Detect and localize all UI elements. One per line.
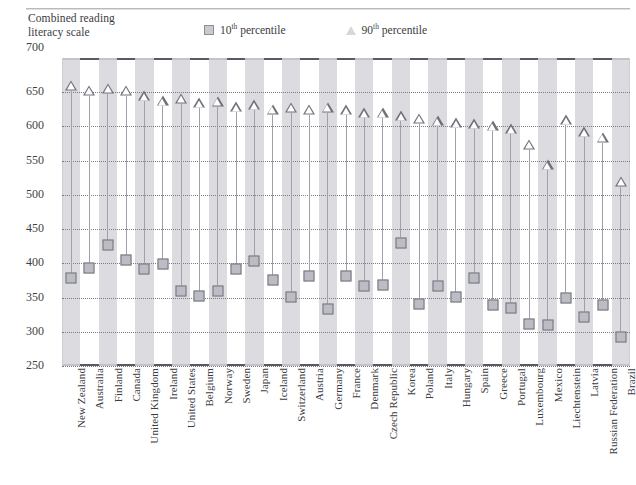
data-point-90th[interactable] bbox=[230, 102, 242, 112]
data-point-90th[interactable] bbox=[395, 110, 407, 120]
y-tick-500: 500 bbox=[26, 187, 60, 202]
x-tick-label: Japan bbox=[258, 368, 270, 394]
data-point-10th[interactable] bbox=[487, 300, 498, 311]
data-point-10th[interactable] bbox=[615, 332, 626, 343]
data-point-90th[interactable] bbox=[65, 80, 77, 90]
data-point-10th[interactable] bbox=[505, 302, 516, 313]
data-point-90th[interactable] bbox=[358, 108, 370, 118]
y-axis-tick-labels: 650600550500450400350300250 bbox=[26, 58, 60, 366]
data-point-90th[interactable] bbox=[102, 83, 114, 93]
data-point-10th[interactable] bbox=[84, 263, 95, 274]
data-point-10th[interactable] bbox=[176, 285, 187, 296]
data-point-10th[interactable] bbox=[286, 291, 297, 302]
data-point-90th[interactable] bbox=[377, 108, 389, 118]
data-point-90th[interactable] bbox=[542, 160, 554, 170]
data-point-90th[interactable] bbox=[83, 85, 95, 95]
data-point-90th[interactable] bbox=[248, 100, 260, 110]
data-point-10th[interactable] bbox=[377, 280, 388, 291]
data-point-90th[interactable] bbox=[175, 93, 187, 103]
range-stem bbox=[565, 125, 566, 298]
data-point-90th[interactable] bbox=[322, 102, 334, 112]
x-tick-label: Canada bbox=[130, 368, 142, 402]
x-tick-label: Hungary bbox=[460, 368, 472, 407]
x-axis-tick-labels: New ZealandAustraliaFinlandCanadaUnited … bbox=[62, 368, 630, 480]
x-tick-label: Italy bbox=[442, 368, 454, 389]
data-point-10th[interactable] bbox=[212, 285, 223, 296]
range-stem bbox=[474, 129, 475, 278]
data-point-10th[interactable] bbox=[121, 254, 132, 265]
y-tick-250: 250 bbox=[26, 358, 60, 373]
x-tick-label: Austria bbox=[313, 368, 325, 401]
data-point-90th[interactable] bbox=[138, 91, 150, 101]
data-point-90th[interactable] bbox=[285, 102, 297, 112]
data-point-90th[interactable] bbox=[523, 139, 535, 149]
data-point-90th[interactable] bbox=[340, 105, 352, 115]
data-point-90th[interactable] bbox=[487, 121, 499, 131]
data-point-10th[interactable] bbox=[139, 264, 150, 275]
data-point-10th[interactable] bbox=[341, 271, 352, 282]
data-point-90th[interactable] bbox=[413, 113, 425, 123]
range-stem bbox=[217, 107, 218, 291]
data-point-90th[interactable] bbox=[615, 176, 627, 186]
x-tick-label: Poland bbox=[423, 368, 435, 399]
data-point-10th[interactable] bbox=[560, 293, 571, 304]
data-point-90th[interactable] bbox=[267, 104, 279, 114]
data-point-10th[interactable] bbox=[66, 273, 77, 284]
range-stem bbox=[309, 115, 310, 276]
data-point-10th[interactable] bbox=[194, 290, 205, 301]
y-tick-600: 600 bbox=[26, 118, 60, 133]
data-point-10th[interactable] bbox=[249, 255, 260, 266]
x-tick-label: Spain bbox=[478, 368, 490, 394]
range-stem bbox=[89, 96, 90, 268]
range-stem bbox=[602, 143, 603, 305]
range-stem bbox=[327, 113, 328, 309]
data-point-90th[interactable] bbox=[450, 118, 462, 128]
data-point-10th[interactable] bbox=[579, 312, 590, 323]
data-point-90th[interactable] bbox=[193, 97, 205, 107]
data-point-10th[interactable] bbox=[322, 304, 333, 315]
data-point-10th[interactable] bbox=[395, 237, 406, 248]
data-point-90th[interactable] bbox=[432, 116, 444, 126]
data-point-10th[interactable] bbox=[157, 259, 168, 270]
x-tick-label: Portugal bbox=[515, 368, 527, 406]
y-axis-title: Combined reading literacy scale bbox=[28, 12, 115, 39]
data-point-10th[interactable] bbox=[304, 270, 315, 281]
y-tick-400: 400 bbox=[26, 255, 60, 270]
data-point-90th[interactable] bbox=[560, 115, 572, 125]
data-point-10th[interactable] bbox=[414, 299, 425, 310]
range-stem bbox=[181, 104, 182, 291]
data-point-10th[interactable] bbox=[524, 319, 535, 330]
data-point-90th[interactable] bbox=[157, 95, 169, 105]
range-stem bbox=[236, 112, 237, 269]
data-point-90th[interactable] bbox=[505, 123, 517, 133]
data-point-10th[interactable] bbox=[469, 273, 480, 284]
data-point-10th[interactable] bbox=[231, 264, 242, 275]
data-point-10th[interactable] bbox=[102, 239, 113, 250]
data-point-90th[interactable] bbox=[212, 96, 224, 106]
range-stem bbox=[455, 128, 456, 296]
data-point-90th[interactable] bbox=[468, 119, 480, 129]
data-point-90th[interactable] bbox=[120, 85, 132, 95]
x-tick-label: Norway bbox=[222, 368, 234, 404]
range-stem bbox=[510, 134, 511, 308]
data-point-10th[interactable] bbox=[267, 275, 278, 286]
data-point-90th[interactable] bbox=[597, 132, 609, 142]
x-tick-label: Finland bbox=[112, 368, 124, 402]
data-point-10th[interactable] bbox=[597, 300, 608, 311]
x-tick-label: Latvia bbox=[588, 368, 600, 397]
x-tick-label: Russian Federation bbox=[607, 368, 619, 454]
x-tick-label: United Kingdom bbox=[148, 368, 160, 444]
legend-item-90th: 90th percentile bbox=[346, 24, 428, 36]
x-tick-label: Denmark bbox=[368, 368, 380, 410]
plot-area bbox=[62, 58, 630, 366]
range-stem bbox=[254, 110, 255, 261]
data-point-10th[interactable] bbox=[359, 280, 370, 291]
data-point-10th[interactable] bbox=[542, 319, 553, 330]
data-point-90th[interactable] bbox=[303, 104, 315, 114]
range-stem bbox=[364, 118, 365, 286]
range-stem bbox=[419, 124, 420, 305]
data-point-90th[interactable] bbox=[578, 127, 590, 137]
y-tick-450: 450 bbox=[26, 221, 60, 236]
data-point-10th[interactable] bbox=[450, 291, 461, 302]
data-point-10th[interactable] bbox=[432, 280, 443, 291]
